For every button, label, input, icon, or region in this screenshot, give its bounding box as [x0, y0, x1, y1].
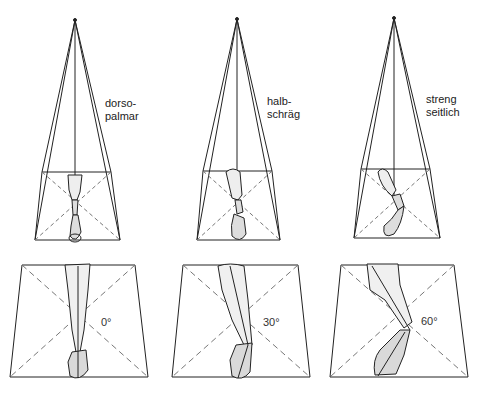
film-dorsopalmar [10, 264, 148, 378]
pyramid-halbschraeg [197, 18, 280, 241]
projection-label-strengseitlich: streng seitlich [426, 93, 460, 119]
projection-label-dorsopalmar: dorso- palmar [105, 97, 139, 123]
label-line2: palmar [105, 110, 139, 123]
label-line1: halb- [267, 95, 300, 108]
angle-label-60: 60° [421, 315, 438, 327]
label-line1: dorso- [105, 97, 139, 110]
label-line2: schräg [267, 108, 300, 121]
label-line2: seitlich [426, 106, 460, 119]
label-line1: streng [426, 93, 460, 106]
angle-label-0: 0° [101, 316, 112, 328]
film-halbschraeg [172, 264, 310, 378]
angle-label-30: 30° [263, 316, 280, 328]
pyramid-dorsopalmar [35, 19, 120, 243]
film-strengseitlich [330, 264, 468, 377]
projection-diagram [0, 0, 480, 395]
pyramid-strengseitlich [354, 17, 440, 239]
projection-label-halbschraeg: halb- schräg [267, 95, 300, 121]
